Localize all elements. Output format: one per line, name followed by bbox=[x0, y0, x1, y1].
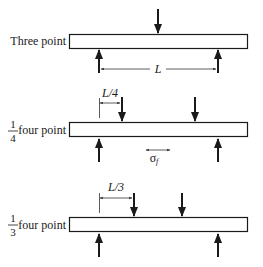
fraction-denominator: 4 bbox=[10, 132, 16, 144]
offset-label: L/4 bbox=[101, 86, 118, 100]
flexure-test-diagram: Three point L 1 4 four point L/4 σf 1 bbox=[0, 0, 263, 267]
quarter-four-point-config: 1 4 four point L/4 σf bbox=[8, 86, 248, 166]
four-point-label: four point bbox=[18, 218, 66, 232]
four-point-label: four point bbox=[18, 123, 66, 137]
fraction-numerator: 1 bbox=[10, 118, 16, 130]
span-label: L bbox=[154, 62, 162, 76]
three-point-config: Three point L bbox=[10, 9, 247, 76]
beam bbox=[70, 218, 248, 232]
fraction-denominator: 3 bbox=[10, 226, 16, 238]
stress-label: σf bbox=[150, 151, 160, 166]
third-four-point-config: 1 3 four point L/3 bbox=[8, 180, 248, 257]
beam bbox=[70, 123, 248, 137]
offset-label: L/3 bbox=[107, 180, 124, 194]
fraction-numerator: 1 bbox=[10, 212, 16, 224]
three-point-label: Three point bbox=[10, 34, 66, 48]
beam bbox=[70, 35, 248, 49]
